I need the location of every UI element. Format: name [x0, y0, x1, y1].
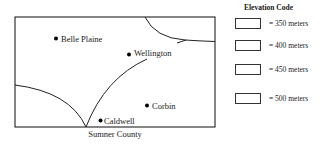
legend-item-400: = 400 meters: [235, 40, 334, 52]
legend-swatch: [235, 40, 261, 51]
city-dot-icon: [99, 119, 103, 123]
legend-label: = 400 meters: [269, 40, 308, 52]
legend-label: = 350 meters: [269, 18, 308, 30]
legend-label: = 450 meters: [269, 64, 308, 76]
city-label: Corbin: [152, 101, 176, 111]
city-label: Caldwell: [104, 116, 135, 126]
city-corbin: Corbin: [145, 101, 176, 111]
city-label: Wellington: [134, 48, 172, 58]
legend-swatch: [235, 93, 261, 104]
legend-item-500: = 500 meters: [235, 93, 334, 105]
legend-item-450: = 450 meters: [235, 64, 334, 76]
county-boundary: [15, 17, 215, 127]
contour-tick: [177, 40, 186, 43]
city-belle-plaine: Belle Plaine: [54, 34, 103, 44]
city-dot-icon: [54, 37, 58, 41]
contour-line: [15, 85, 86, 127]
legend-item-350: = 350 meters: [235, 18, 334, 30]
city-caldwell: Caldwell: [99, 116, 136, 126]
legend-swatch: [235, 18, 261, 29]
legend-title: Elevation Code: [244, 3, 293, 12]
city-dot-icon: [145, 104, 149, 108]
contour-line: [145, 17, 215, 42]
legend-swatch: [235, 64, 261, 75]
legend-label: = 500 meters: [269, 93, 308, 105]
city-wellington: Wellington: [127, 48, 172, 58]
map-caption: Sumner County: [15, 129, 215, 139]
city-dot-icon: [127, 53, 131, 57]
city-label: Belle Plaine: [61, 34, 103, 44]
